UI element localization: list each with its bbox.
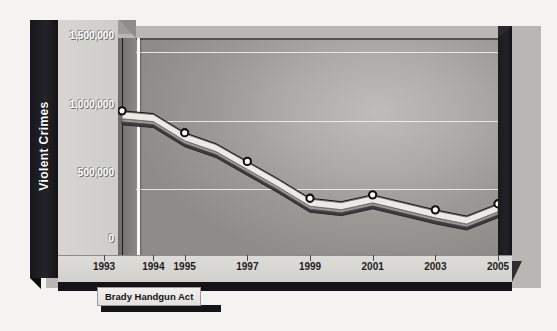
x-tick-label: 1995 xyxy=(174,261,196,272)
x-tick-label: 2001 xyxy=(362,261,384,272)
series-marker xyxy=(306,195,313,202)
x-axis-slab-right-bevel xyxy=(512,261,522,282)
plot-top-bevel xyxy=(118,20,136,38)
y-axis-title-bar: Violent Crimes xyxy=(30,20,58,278)
plot-right-wall-bevel xyxy=(498,26,512,38)
plot-area xyxy=(118,38,510,255)
x-tick-label: 1997 xyxy=(236,261,258,272)
series-marker xyxy=(118,107,125,114)
series-markers xyxy=(118,107,501,213)
y-axis-bar-bevel xyxy=(30,278,41,289)
y-tick-label: 0 xyxy=(108,233,114,244)
x-tick-label: 1994 xyxy=(142,261,164,272)
y-tick-label: 500,000 xyxy=(78,167,114,178)
series-marker xyxy=(244,158,251,165)
y-tick-label: 1,000,000 xyxy=(70,99,115,110)
x-tick-label: 1993 xyxy=(93,261,115,272)
brady-callout-label: Brady Handgun Act xyxy=(105,291,193,302)
series-marker xyxy=(369,191,376,198)
brady-callout-shadow xyxy=(101,305,221,312)
series-marker xyxy=(181,129,188,136)
y-axis-title: Violent Crimes xyxy=(30,35,58,257)
series-marker xyxy=(432,206,439,213)
x-tick-label: 2003 xyxy=(424,261,446,272)
chart-figure: Violent Crimes 1,500,000 1,000,000 500,0… xyxy=(0,0,557,331)
y-axis-label-panel: 1,500,000 1,000,000 500,000 0 xyxy=(58,20,118,278)
plot-right-wall xyxy=(498,26,512,266)
brady-handgun-act-callout: Brady Handgun Act xyxy=(97,287,201,306)
x-tick-label: 2005 xyxy=(487,261,509,272)
series-ribbon xyxy=(118,38,510,255)
y-tick-label: 1,500,000 xyxy=(70,30,115,41)
x-tick-label: 1999 xyxy=(299,261,321,272)
